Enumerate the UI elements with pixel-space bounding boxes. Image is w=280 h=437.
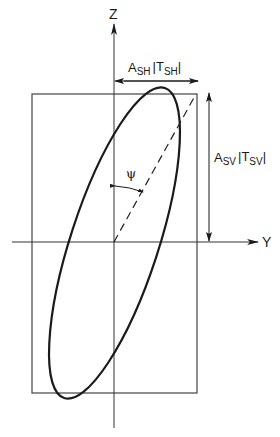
- horizontal-amplitude-label: ASH|TSH|: [128, 59, 181, 77]
- y-axis-label: Y: [262, 234, 272, 250]
- angle-psi-label: ψ: [126, 166, 136, 181]
- polarization-ellipse-diagram: Z Y ψ ASH|TSH| ASV|TSV|: [0, 0, 280, 437]
- z-axis-label: Z: [109, 6, 118, 22]
- vertical-amplitude-label: ASV|TSV|: [214, 149, 266, 167]
- angle-psi-arc: [115, 186, 143, 192]
